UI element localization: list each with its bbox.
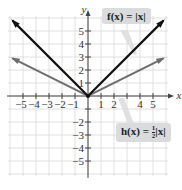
graph-plot: −5−4−3−2−1124554321−2−3−4−5xy: [0, 0, 182, 190]
h-label-prefix: h(x) =: [121, 125, 152, 137]
x-tick-label: 4: [137, 98, 143, 110]
y-tick-label: −5: [72, 155, 84, 167]
arrowhead: [11, 57, 20, 64]
f-label-text: f(x) = |x|: [107, 10, 146, 22]
x-tick-label: −5: [15, 98, 27, 110]
y-tick-label: 2: [79, 64, 85, 76]
y-tick-label: 3: [79, 51, 85, 63]
arrowhead: [156, 57, 165, 64]
y-tick-label: 5: [79, 25, 85, 37]
h-function-label: h(x) = 12|x|: [116, 123, 171, 142]
y-tick-label: −4: [72, 142, 84, 154]
f-function-label: f(x) = |x|: [102, 8, 151, 24]
x-tick-label: 5: [150, 98, 156, 110]
x-tick-label: −1: [67, 98, 79, 110]
x-tick-label: −3: [41, 98, 53, 110]
y-tick-label: 4: [79, 38, 85, 50]
x-tick-label: −2: [54, 98, 66, 110]
x-tick-label: 1: [98, 98, 104, 110]
y-tick-label: −2: [72, 116, 84, 128]
y-axis-label: y: [81, 3, 87, 15]
x-axis-label: x: [176, 89, 182, 101]
x-tick-label: 2: [111, 98, 117, 110]
x-tick-label: −4: [28, 98, 40, 110]
h-label-suffix: |x|: [155, 125, 165, 137]
y-tick-label: −3: [72, 129, 84, 141]
